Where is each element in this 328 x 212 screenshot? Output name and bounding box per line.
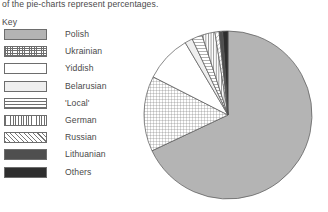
legend-item-lithuanian: Lithuanian (2, 148, 152, 165)
legend-swatch-others (4, 167, 47, 178)
legend-item-others: Others (2, 166, 152, 183)
legend-item-yiddish: Yiddish (2, 62, 152, 79)
legend-item-local: 'Local' (2, 97, 152, 114)
pie-slice-others (223, 31, 228, 115)
legend-swatch-local (4, 98, 47, 109)
legend-swatch-polish (4, 29, 47, 40)
pie-slice-ukrainian (144, 77, 228, 151)
legend-swatch-belarusian (4, 81, 47, 92)
pie-slice-lithuanian (219, 31, 228, 115)
legend-swatch-russian (4, 132, 47, 143)
legend-item-russian: Russian (2, 131, 152, 148)
legend-label-others: Others (65, 166, 91, 179)
caption-text: of the pie-charts represent percentages. (2, 0, 212, 9)
legend-item-ukrainian: Ukrainian (2, 45, 152, 62)
legend-item-belarusian: Belarusian (2, 80, 152, 97)
legend-label-german: German (65, 114, 97, 127)
legend-label-yiddish: Yiddish (65, 62, 94, 75)
pie-slice-german (202, 32, 228, 115)
legend-label-russian: Russian (65, 131, 97, 144)
pie-slice-yiddish (153, 43, 228, 115)
legend-label-belarusian: Belarusian (65, 80, 107, 93)
legend: Polish Ukrainian Yiddish Belarusian 'Loc… (2, 28, 152, 183)
legend-swatch-lithuanian (4, 149, 47, 160)
legend-label-local: 'Local' (65, 97, 90, 110)
key-title: Key (2, 17, 17, 27)
legend-swatch-ukrainian (4, 46, 47, 57)
legend-swatch-german (4, 115, 47, 126)
pie-slice-local (192, 35, 228, 115)
legend-label-lithuanian: Lithuanian (65, 148, 106, 161)
legend-label-polish: Polish (65, 28, 89, 41)
legend-item-german: German (2, 114, 152, 131)
legend-item-polish: Polish (2, 28, 152, 45)
pie-slices (144, 31, 312, 199)
pie-slice-polish (152, 31, 312, 199)
legend-label-ukrainian: Ukrainian (65, 45, 102, 58)
pie-slice-russian (215, 31, 228, 115)
pie-slice-belarusian (185, 39, 228, 115)
legend-swatch-yiddish (4, 63, 47, 74)
